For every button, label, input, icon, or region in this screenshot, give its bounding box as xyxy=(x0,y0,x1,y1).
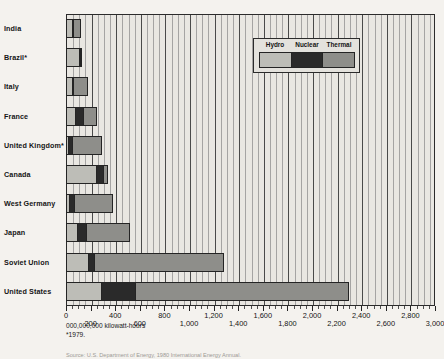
legend-label-row: HydroNuclearThermal xyxy=(254,41,359,52)
bar-series-layer xyxy=(66,14,435,306)
axis-tick-label: 2,400 xyxy=(352,311,371,320)
bar-row xyxy=(66,277,435,306)
axis-tick-minor xyxy=(343,306,344,309)
bar-row xyxy=(66,248,435,277)
bar-segment-hydro xyxy=(67,108,75,125)
axis-tick-minor xyxy=(207,306,208,309)
bar-row xyxy=(66,160,435,189)
footnotes: 000,000,000 kilowatt-hours *1979. xyxy=(66,322,426,339)
bar-segment-nuclear xyxy=(77,224,86,241)
legend-swatch-nuclear xyxy=(291,53,323,67)
axis-tick-major xyxy=(140,306,141,311)
legend-label-nuclear: Nuclear xyxy=(295,41,318,48)
axis-tick-minor xyxy=(201,306,202,309)
axis-tick-minor xyxy=(374,306,375,309)
axis-tick-minor xyxy=(423,306,424,309)
axis-tick-minor xyxy=(232,306,233,309)
bar-segment-nuclear xyxy=(75,108,82,125)
stacked-bar xyxy=(66,223,130,242)
stacked-bar xyxy=(66,77,88,96)
axis-tick-minor xyxy=(158,306,159,309)
axis-tick-label: 0 xyxy=(64,311,68,320)
bar-segment-hydro xyxy=(67,49,79,66)
axis-tick-minor xyxy=(404,306,405,309)
axis-tick-minor xyxy=(84,306,85,309)
bar-segment-nuclear xyxy=(96,166,103,183)
stacked-bar xyxy=(66,253,224,272)
axis-tick-major xyxy=(287,306,288,311)
axis-tick-minor xyxy=(244,306,245,309)
axis-tick-minor xyxy=(146,306,147,309)
value-axis: 02004006008001,0001,2001,4001,6001,8002,… xyxy=(66,306,435,322)
bar-segment-thermal xyxy=(83,108,97,125)
legend-swatch-row xyxy=(259,52,355,68)
stacked-bar xyxy=(66,19,81,38)
axis-tick-major xyxy=(238,306,239,311)
legend-label-thermal: Thermal xyxy=(327,41,352,48)
bar-row xyxy=(66,189,435,218)
bar-segment-hydro xyxy=(67,254,88,271)
category-label: Italy xyxy=(4,72,62,101)
axis-tick-minor xyxy=(128,306,129,309)
category-label: India xyxy=(4,14,62,43)
axis-tick-minor xyxy=(195,306,196,309)
axis-tick-label: 3,000 xyxy=(426,319,444,328)
bar-segment-thermal xyxy=(73,78,87,95)
axis-tick-major xyxy=(189,306,190,311)
year-footnote: *1979. xyxy=(66,331,426,340)
axis-tick-minor xyxy=(269,306,270,309)
axis-tick-minor xyxy=(306,306,307,309)
axis-tick-label: 400 xyxy=(109,311,121,320)
category-axis-labels: IndiaBrazil*ItalyFranceUnited Kingdom*Ca… xyxy=(0,14,64,306)
bar-row xyxy=(66,43,435,72)
axis-tick-label: 2,000 xyxy=(303,311,322,320)
stacked-bar xyxy=(66,165,108,184)
category-label: France xyxy=(4,102,62,131)
axis-tick-minor xyxy=(349,306,350,309)
axis-tick-minor xyxy=(380,306,381,309)
bar-row xyxy=(66,72,435,101)
axis-tick-minor xyxy=(220,306,221,309)
axis-tick-minor xyxy=(318,306,319,309)
category-label: Japan xyxy=(4,218,62,247)
stacked-bar xyxy=(66,282,349,301)
category-label: United Kingdom* xyxy=(4,131,62,160)
bar-row xyxy=(66,131,435,160)
legend-label-hydro: Hydro xyxy=(266,41,284,48)
axis-tick-minor xyxy=(152,306,153,309)
axis-tick-label: 800 xyxy=(158,311,170,320)
stacked-bar xyxy=(66,48,82,67)
axis-tick-label: 1,200 xyxy=(204,311,223,320)
stacked-bar xyxy=(66,107,97,126)
axis-tick-minor xyxy=(324,306,325,309)
bar-segment-nuclear xyxy=(88,254,95,271)
bar-segment-hydro xyxy=(67,166,96,183)
legend-swatch-thermal xyxy=(322,53,354,67)
axis-tick-minor xyxy=(294,306,295,309)
stacked-bar xyxy=(66,194,113,213)
axis-tick-minor xyxy=(78,306,79,309)
axis-tick-minor xyxy=(281,306,282,309)
bar-segment-thermal xyxy=(103,166,107,183)
axis-tick-minor xyxy=(417,306,418,309)
axis-tick-minor xyxy=(226,306,227,309)
axis-tick-minor xyxy=(121,306,122,309)
bar-segment-thermal xyxy=(80,49,81,66)
category-label: United States xyxy=(4,277,62,306)
category-label: Brazil* xyxy=(4,43,62,72)
bar-segment-hydro xyxy=(67,283,101,300)
axis-tick-major xyxy=(435,306,436,311)
axis-tick-minor xyxy=(177,306,178,309)
bar-segment-thermal xyxy=(72,137,100,154)
axis-tick-minor xyxy=(171,306,172,309)
axis-tick-minor xyxy=(251,306,252,309)
legend: HydroNuclearThermal xyxy=(253,38,360,73)
axis-tick-major xyxy=(386,306,387,311)
axis-tick-label: 1,600 xyxy=(254,311,273,320)
axis-tick-minor xyxy=(134,306,135,309)
axis-tick-minor xyxy=(398,306,399,309)
axis-tick-minor xyxy=(429,306,430,309)
units-note: 000,000,000 kilowatt-hours xyxy=(66,322,426,331)
axis-tick-minor xyxy=(330,306,331,309)
